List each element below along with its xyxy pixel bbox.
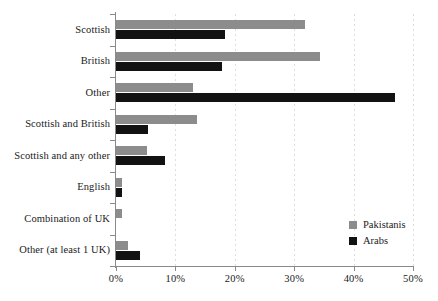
y-axis-tick [110,172,116,173]
y-axis-tick [110,203,116,204]
x-axis-tick [116,266,117,271]
y-axis-category-label: Scottish and British [2,118,110,129]
y-axis-tick [110,46,116,47]
x-axis-tick-label: 10% [165,273,185,284]
y-axis-category-label: Combination of UK [2,213,110,224]
y-axis-tick [110,14,116,15]
bar-chart: 0%10%20%30%40%50% ScottishBritishOtherSc… [0,0,438,301]
x-axis-tick-label: 40% [344,273,364,284]
bar-0-6 [116,209,122,218]
y-axis-category-label: Other (at least 1 UK) [2,244,110,255]
bar-1-7 [116,251,140,260]
legend-label: Pakistanis [363,219,406,230]
bar-0-2 [116,83,193,92]
legend-label: Arabs [363,235,388,246]
x-axis-tick [235,266,236,271]
bar-0-1 [116,52,320,61]
y-axis-category-label: British [2,55,110,66]
y-axis-tick [110,266,116,267]
x-axis-tick [294,266,295,271]
legend: PakistanisArabs [349,219,406,246]
gridline [413,14,414,266]
legend-item: Arabs [349,235,406,246]
x-axis-tick-label: 30% [284,273,304,284]
x-axis-tick-label: 20% [225,273,245,284]
y-axis-category-label: English [2,181,110,192]
bar-0-5 [116,178,122,187]
x-axis-tick-label: 50% [403,273,423,284]
legend-swatch-icon [349,237,357,245]
x-axis-tick [175,266,176,271]
bar-0-3 [116,115,197,124]
x-axis-tick [413,266,414,271]
x-axis-line [115,266,414,267]
y-axis-category-label: Scottish [2,24,110,35]
bar-1-2 [116,93,395,102]
bar-1-5 [116,188,122,197]
x-axis-tick [354,266,355,271]
y-axis-tick [110,109,116,110]
bar-0-7 [116,241,128,250]
bar-0-4 [116,146,147,155]
y-axis-category-label: Other [2,87,110,98]
y-axis-tick [110,235,116,236]
bar-1-4 [116,156,165,165]
x-axis-tick-label: 0% [109,273,123,284]
y-axis-labels: ScottishBritishOtherScottish and British… [0,0,110,301]
legend-item: Pakistanis [349,219,406,230]
y-axis-category-label: Scottish and any other [2,150,110,161]
y-axis-tick [110,140,116,141]
bar-1-0 [116,30,225,39]
bar-0-0 [116,20,305,29]
bar-1-1 [116,62,222,71]
legend-swatch-icon [349,221,357,229]
bar-1-3 [116,125,148,134]
y-axis-tick [110,77,116,78]
